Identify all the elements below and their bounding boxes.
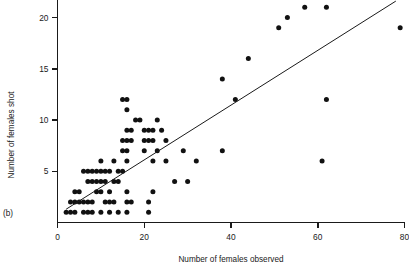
data-point <box>129 138 134 143</box>
y-tick-label: 10 <box>39 115 49 125</box>
x-tick-label: 20 <box>140 232 150 242</box>
data-point <box>85 179 90 184</box>
data-point <box>103 200 108 205</box>
data-point <box>159 128 164 133</box>
data-point <box>116 210 121 215</box>
regression-line <box>66 1 396 209</box>
data-point <box>146 138 151 143</box>
x-tick-label: 80 <box>400 232 409 242</box>
data-point <box>398 25 403 30</box>
data-point <box>98 189 103 194</box>
data-point <box>85 169 90 174</box>
data-point <box>276 25 281 30</box>
data-point <box>81 200 86 205</box>
data-point <box>90 169 95 174</box>
data-point <box>129 200 134 205</box>
data-point <box>150 159 155 164</box>
data-point <box>146 200 151 205</box>
data-point <box>150 138 155 143</box>
data-point <box>90 179 95 184</box>
x-tick-label: 0 <box>55 232 60 242</box>
data-point <box>68 200 73 205</box>
x-tick-label: 60 <box>313 232 323 242</box>
data-points <box>64 5 403 215</box>
data-point <box>320 159 325 164</box>
data-point <box>98 210 103 215</box>
data-point <box>72 210 77 215</box>
data-point <box>137 118 142 123</box>
data-point <box>194 159 199 164</box>
data-point <box>142 138 147 143</box>
data-point <box>90 200 95 205</box>
data-point <box>94 179 99 184</box>
data-point <box>129 128 134 133</box>
data-point <box>302 5 307 10</box>
data-point <box>155 118 160 123</box>
data-point <box>116 179 121 184</box>
data-point <box>285 15 290 20</box>
data-point <box>133 118 138 123</box>
data-point <box>124 138 129 143</box>
data-point <box>94 169 99 174</box>
data-point <box>64 210 69 215</box>
data-point <box>111 200 116 205</box>
data-point <box>77 189 82 194</box>
data-point <box>81 210 86 215</box>
data-point <box>324 5 329 10</box>
data-point <box>124 210 129 215</box>
data-point <box>142 148 147 153</box>
scatter-plot: 020406080 5101520 Number of females obse… <box>0 0 409 268</box>
data-point <box>150 189 155 194</box>
data-point <box>142 128 147 133</box>
data-point <box>68 210 73 215</box>
data-point <box>185 179 190 184</box>
data-point <box>146 210 151 215</box>
data-point <box>98 179 103 184</box>
data-point <box>107 189 112 194</box>
y-tick-label: 15 <box>39 64 49 74</box>
figure-panel-b: 020406080 5101520 Number of females obse… <box>0 0 409 268</box>
data-point <box>111 159 116 164</box>
data-point <box>172 179 177 184</box>
data-point <box>107 169 112 174</box>
y-axis-ticks: 5101520 <box>39 13 57 177</box>
data-point <box>150 128 155 133</box>
data-point <box>220 77 225 82</box>
data-point <box>163 138 168 143</box>
data-point <box>124 97 129 102</box>
data-point <box>124 107 129 112</box>
y-axis-title: Number of females shot <box>7 91 16 179</box>
x-tick-label: 40 <box>226 232 236 242</box>
data-point <box>103 169 108 174</box>
axes <box>58 0 405 223</box>
data-point <box>98 159 103 164</box>
data-point <box>72 189 77 194</box>
data-point <box>98 169 103 174</box>
x-axis-ticks: 020406080 <box>55 223 409 242</box>
data-point <box>246 56 251 61</box>
data-point <box>124 128 129 133</box>
y-tick-label: 20 <box>39 13 49 23</box>
y-tick-label: 5 <box>44 166 49 176</box>
x-axis-title: Number of females observed <box>178 255 284 264</box>
data-point <box>146 128 151 133</box>
data-point <box>81 169 86 174</box>
data-point <box>120 138 125 143</box>
data-point <box>220 148 225 153</box>
data-point <box>163 159 168 164</box>
data-point <box>181 148 186 153</box>
data-point <box>124 159 129 164</box>
data-point <box>120 148 125 153</box>
data-point <box>124 148 129 153</box>
data-point <box>107 200 112 205</box>
data-point <box>124 200 129 205</box>
data-point <box>85 200 90 205</box>
data-point <box>107 210 112 215</box>
data-point <box>116 169 121 174</box>
data-point <box>90 210 95 215</box>
data-point <box>85 210 90 215</box>
data-point <box>124 189 129 194</box>
panel-label: (b) <box>3 209 13 218</box>
data-point <box>120 97 125 102</box>
data-point <box>324 97 329 102</box>
